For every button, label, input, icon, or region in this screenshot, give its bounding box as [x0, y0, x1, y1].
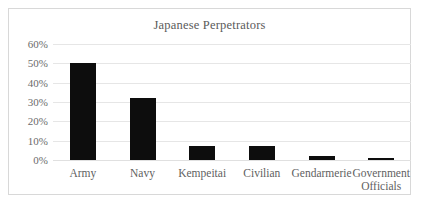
y-axis-tick-50: 50%	[8, 57, 48, 69]
chart-title: Japanese Perpetrators	[9, 18, 410, 33]
bar-slot-government-officials: Government Officials	[351, 44, 411, 160]
bar-slot-army: Army	[53, 44, 113, 160]
bar-army[interactable]	[70, 63, 96, 160]
bar-slot-civilian: Civilian	[232, 44, 292, 160]
y-axis-tick-30: 30%	[8, 96, 48, 108]
y-axis-tick-60: 60%	[8, 38, 48, 50]
chart-figure: Japanese Perpetrators 60% 50% 40% 30% 20…	[8, 8, 411, 195]
bar-government-officials[interactable]	[368, 158, 394, 160]
x-axis-label-government-officials: Government Officials	[348, 167, 414, 193]
bar-slot-navy: Navy	[113, 44, 173, 160]
bar-kempeitai[interactable]	[189, 146, 215, 160]
bar-slot-kempeitai: Kempeitai	[172, 44, 232, 160]
bar-slot-gendarmerie: Gendarmerie	[292, 44, 352, 160]
bar-civilian[interactable]	[249, 146, 275, 160]
bar-series: Army Navy Kempeitai Civilian Gendarmerie	[53, 44, 411, 160]
y-axis-tick-40: 40%	[8, 77, 48, 89]
gridline-0	[53, 160, 411, 161]
y-axis-tick-10: 10%	[8, 135, 48, 147]
plot-area: 60% 50% 40% 30% 20% 10% 0% Army Navy Kem…	[53, 44, 411, 160]
bar-navy[interactable]	[130, 98, 156, 160]
bar-gendarmerie[interactable]	[309, 156, 335, 160]
y-axis-tick-0: 0%	[8, 154, 48, 166]
y-axis-tick-20: 20%	[8, 115, 48, 127]
